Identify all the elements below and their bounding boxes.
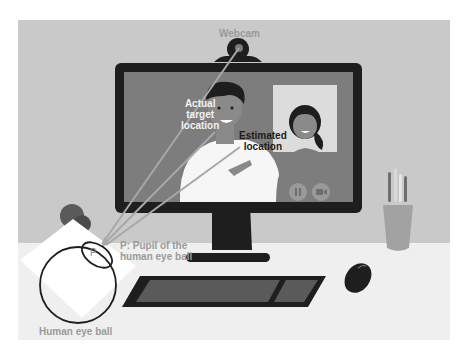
actual-target-label-line-1: Actual [181,98,219,109]
estimated-label-line-2: location [239,141,287,152]
camera-off-button[interactable] [312,183,330,201]
actual-target-label-line-2: target [181,109,219,120]
actual-target-label: Actual target location [181,98,219,131]
keyboard-icon [122,276,326,307]
pupil-label-line-2: human eye ball [120,251,192,262]
pause-button[interactable] [289,183,307,201]
pupil-label-line-1: P: Pupil of the [120,240,192,251]
estimated-location-label: Estimated location [239,130,287,152]
gaze-estimation-diagram [0,0,468,357]
actual-target-label-line-3: location [181,120,219,131]
pupil-label: P: Pupil of the human eye ball [120,240,192,262]
estimated-label-line-1: Estimated [239,130,287,141]
eyeball-label: Human eye ball [39,326,112,337]
pupil-marker-label: P [90,247,97,258]
webcam-label: Webcam [219,28,260,39]
